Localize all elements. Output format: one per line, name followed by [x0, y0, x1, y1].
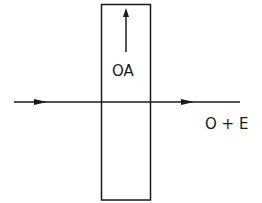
optic-axis-label: OA [112, 62, 135, 80]
output-arrow-icon [181, 99, 194, 105]
incident-arrow-icon [34, 99, 47, 105]
output-beam-label: O + E [205, 115, 248, 133]
light-beam [14, 99, 240, 105]
birefringent-plate-diagram: OA O + E [0, 0, 262, 203]
optic-axis-arrow [123, 8, 129, 52]
